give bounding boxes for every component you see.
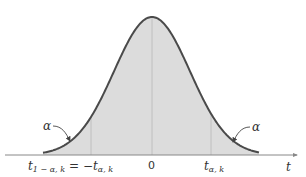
right-tail-arrow-icon bbox=[233, 127, 250, 142]
axis-arrow-icon bbox=[293, 153, 298, 157]
right-critical-label: tα, k bbox=[204, 159, 224, 174]
left-critical-label: t1 − α, k= −tα, k bbox=[28, 159, 113, 174]
t-distribution-diagram: α α t1 − α, k= −tα, k 0 tα, k t bbox=[0, 0, 306, 177]
right-critical-sub: α, k bbox=[209, 165, 224, 174]
left-tail-arrow-icon bbox=[53, 126, 70, 141]
left-tail-alpha-label: α bbox=[43, 119, 51, 133]
zero-tick-label: 0 bbox=[148, 159, 155, 172]
left-critical-sub: 1 − α, k bbox=[33, 165, 65, 174]
left-critical-eq: = −t bbox=[69, 159, 98, 173]
left-critical-eq-sub: α, k bbox=[98, 165, 113, 174]
t-axis-label: t bbox=[286, 160, 291, 174]
right-tail-alpha-label: α bbox=[252, 120, 260, 134]
